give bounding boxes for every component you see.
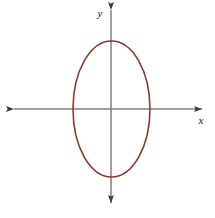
- x-axis-label: x: [198, 114, 204, 126]
- coordinate-plane-svg: y x: [0, 0, 215, 218]
- graph-figure: y x: [0, 0, 215, 218]
- y-axis-label: y: [97, 7, 103, 19]
